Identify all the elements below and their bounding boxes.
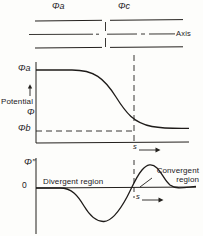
upper-electrode-left-line bbox=[35, 20, 102, 21]
region-label-phi-c: Φc bbox=[118, 2, 130, 11]
s-label-lower: s bbox=[136, 193, 140, 201]
phi-second-derivative-label: Φ″ bbox=[24, 157, 35, 167]
zero-axis-label: 0 bbox=[22, 181, 27, 190]
convergent-region-label-line1: Convergent bbox=[137, 166, 199, 175]
upper-electrode-right-line bbox=[110, 20, 183, 21]
lower-electrode-left-line bbox=[35, 47, 102, 48]
axis-label: Axis bbox=[176, 30, 191, 38]
figure-canvas bbox=[0, 0, 203, 236]
convergent-region-label: Convergent region bbox=[137, 166, 199, 184]
potential-axis-label: Potential bbox=[1, 98, 33, 106]
s-arrow-lower bbox=[142, 198, 164, 203]
potential-axis-symbol: Φ bbox=[27, 108, 35, 117]
region-label-phi-a: Φa bbox=[52, 2, 65, 11]
physics-figure: Φa Φc Axis Φa Potential Φ Φb s Φ″ 0 Dive… bbox=[0, 0, 203, 236]
s-arrow-upper bbox=[139, 148, 161, 153]
phi-a-axis-label: Φa bbox=[18, 64, 31, 73]
phi-b-axis-label: Φb bbox=[18, 124, 31, 133]
divergent-region-label: Divergent region bbox=[43, 178, 103, 186]
s-label-upper: s bbox=[133, 143, 137, 151]
axis-dash-dot-line bbox=[29, 34, 175, 35]
potential-x-axis bbox=[36, 142, 189, 143]
potential-curve bbox=[36, 70, 189, 129]
lower-electrode-right-line bbox=[110, 47, 183, 48]
convergent-region-label-line2: region bbox=[137, 175, 199, 184]
potential-direction-arrow bbox=[28, 84, 32, 96]
